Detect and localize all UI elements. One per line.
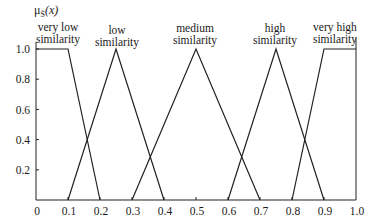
label-low-similarity: low similarity bbox=[95, 24, 139, 48]
x-tick-label: 0.7 bbox=[254, 205, 268, 217]
label-very-low-similarity: very low similarity bbox=[36, 21, 80, 45]
x-tick-label: 0.1 bbox=[62, 205, 76, 217]
label-line: very low bbox=[36, 21, 80, 33]
x-tick-label: 0.8 bbox=[286, 205, 300, 217]
x-tick-label: 0.3 bbox=[126, 205, 140, 217]
y-tick-label: 0.8 bbox=[4, 73, 30, 85]
y-axis-label-argument: (x) bbox=[45, 3, 58, 17]
y-tick-label: 0.4 bbox=[4, 134, 30, 146]
x-tick-label: 0.4 bbox=[158, 205, 172, 217]
label-line: very high bbox=[313, 21, 357, 33]
label-line: similarity bbox=[36, 33, 80, 45]
x-tick-label: 0.9 bbox=[318, 205, 332, 217]
x-tick-label: 0.2 bbox=[94, 205, 108, 217]
curve-very-low-similarity bbox=[36, 49, 100, 200]
label-line: similarity bbox=[313, 33, 357, 45]
y-axis-label: μS̃(x) bbox=[34, 3, 58, 19]
label-medium-similarity: medium similarity bbox=[173, 22, 217, 46]
curve-high-similarity bbox=[228, 49, 324, 200]
label-line: medium bbox=[173, 22, 217, 34]
curve-very-high-similarity bbox=[292, 49, 356, 200]
label-high-similarity: high similarity bbox=[253, 22, 297, 46]
x-tick-label: 0 bbox=[34, 205, 40, 217]
x-tick-label: 1.0 bbox=[350, 205, 364, 217]
label-line: similarity bbox=[253, 34, 297, 46]
label-line: high bbox=[253, 22, 297, 34]
curve-medium-similarity bbox=[132, 49, 260, 200]
x-tick-label: 0.6 bbox=[222, 205, 236, 217]
x-tick-label: 0.5 bbox=[190, 205, 204, 217]
y-tick-label: 0.6 bbox=[4, 104, 30, 116]
label-very-high-similarity: very high similarity bbox=[313, 21, 357, 45]
label-line: similarity bbox=[95, 36, 139, 48]
y-tick-label: 1.0 bbox=[4, 43, 30, 55]
label-line: similarity bbox=[173, 34, 217, 46]
label-line: low bbox=[95, 24, 139, 36]
y-tick-label: 0.2 bbox=[4, 164, 30, 176]
curve-low-similarity bbox=[68, 49, 164, 200]
